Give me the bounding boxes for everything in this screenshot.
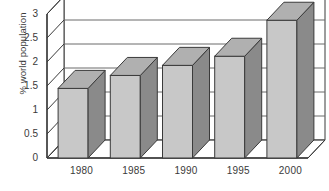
x-axis-tick-labels: 19801985199019952000 (0, 0, 329, 191)
x-tick-label-1990: 1990 (162, 165, 210, 176)
x-tick-label-1980: 1980 (58, 165, 106, 176)
x-tick-label-2000: 2000 (266, 165, 314, 176)
bar-chart: % world population 00.511.522.53 1980198… (0, 0, 329, 191)
x-tick-label-1995: 1995 (214, 165, 262, 176)
x-tick-label-1985: 1985 (110, 165, 158, 176)
